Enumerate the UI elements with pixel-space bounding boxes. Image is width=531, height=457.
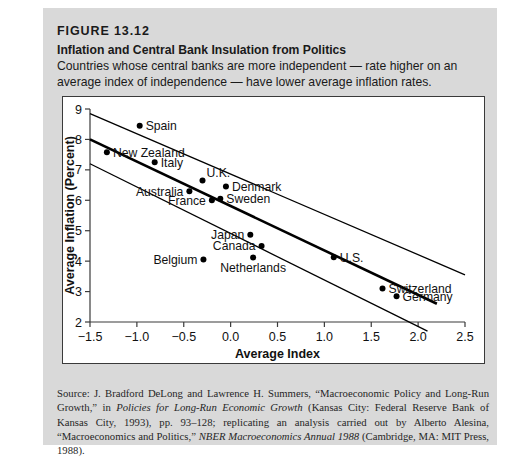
point-marker bbox=[250, 254, 256, 260]
x-tick-label: −1.5 bbox=[78, 330, 103, 344]
x-axis-title: Average Index bbox=[235, 347, 320, 361]
data-point: Spain bbox=[137, 119, 177, 133]
source-italic-2: NBER Macroeconomics Annual 1988 bbox=[199, 430, 359, 442]
points-layer: SpainNew ZealandItalyU.K.DenmarkAustrali… bbox=[104, 119, 454, 303]
point-marker bbox=[104, 149, 110, 155]
x-tick-label: −1.0 bbox=[125, 330, 150, 344]
axis-layer: 23456789−1.5−1.0−0.50.00.51.01.52.02.5 bbox=[75, 103, 474, 345]
point-label: U.K. bbox=[207, 166, 231, 180]
y-tick-label: 9 bbox=[75, 103, 82, 117]
point-marker bbox=[394, 293, 400, 299]
point-marker bbox=[223, 184, 229, 190]
point-marker bbox=[247, 232, 253, 238]
point-marker bbox=[209, 197, 215, 203]
chart-plot-area: 23456789−1.5−1.0−0.50.00.51.01.52.02.5 S… bbox=[62, 96, 485, 364]
x-tick-label: 1.5 bbox=[363, 330, 380, 344]
figure-number: FIGURE 13.12 bbox=[57, 24, 481, 38]
point-marker bbox=[380, 286, 386, 292]
x-tick-label: 1.0 bbox=[316, 330, 333, 344]
point-marker bbox=[152, 159, 158, 165]
point-marker bbox=[200, 257, 206, 263]
data-point: U.S. bbox=[331, 251, 364, 265]
source-italic-1: Policies for Long-Run Economic Growth bbox=[116, 401, 302, 413]
x-tick-label: 2.5 bbox=[456, 330, 473, 344]
data-point: Germany bbox=[394, 290, 454, 304]
figure-subtitle: Countries whose central banks are more i… bbox=[57, 59, 481, 90]
figure-header: FIGURE 13.12 Inflation and Central Bank … bbox=[57, 24, 481, 90]
data-point: Belgium bbox=[153, 253, 206, 267]
y-tick-label: 2 bbox=[75, 316, 82, 330]
point-label: Belgium bbox=[153, 253, 197, 267]
y-axis-title: Average Inflation (Percent) bbox=[63, 136, 77, 295]
point-label: Canada bbox=[213, 239, 256, 253]
data-point: U.K. bbox=[200, 166, 231, 184]
point-marker bbox=[217, 196, 223, 202]
scatter-chart: 23456789−1.5−1.0−0.50.00.51.01.52.02.5 S… bbox=[63, 97, 484, 363]
x-tick-label: 0.5 bbox=[269, 330, 286, 344]
point-label: Netherlands bbox=[220, 261, 286, 275]
data-point: Netherlands bbox=[220, 254, 286, 275]
figure-title: Inflation and Central Bank Insulation fr… bbox=[57, 43, 481, 57]
point-marker bbox=[259, 243, 265, 249]
point-label: U.S. bbox=[340, 251, 364, 265]
point-label: France bbox=[168, 194, 206, 208]
x-tick-label: −0.5 bbox=[171, 330, 196, 344]
point-label: Spain bbox=[146, 119, 177, 133]
x-tick-label: 0.0 bbox=[222, 330, 239, 344]
point-label: Germany bbox=[403, 290, 454, 304]
point-label: Sweden bbox=[226, 192, 270, 206]
figure-panel: FIGURE 13.12 Inflation and Central Bank … bbox=[43, 8, 497, 445]
source-note: Source: J. Bradford DeLong and Lawrence … bbox=[57, 386, 489, 457]
x-tick-label: 2.0 bbox=[409, 330, 426, 344]
point-marker bbox=[331, 254, 337, 260]
point-label: Italy bbox=[161, 156, 184, 170]
point-marker bbox=[137, 123, 143, 129]
point-marker bbox=[200, 178, 206, 184]
regression-line bbox=[90, 139, 437, 303]
